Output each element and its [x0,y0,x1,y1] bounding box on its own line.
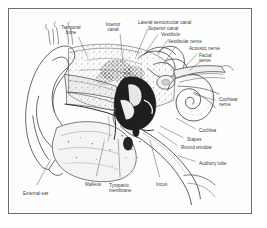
label-temporal-bone: Temporal bone [61,25,80,36]
vestibule-chamber [157,75,175,89]
label-vestibular-nerve: Vestibular nerve [168,39,202,44]
leader-cochlea [176,118,196,129]
label-malleus: Malleus [85,182,101,187]
figure-frame: Temporal boneInterior canalLateral semic… [8,8,252,214]
label-tympanic-membrane: Tympanic membrane [109,183,131,194]
auditory-tube-duct [136,130,215,205]
leader-acoustic-nerve [186,54,198,67]
leader-cochlear-nerve [193,94,215,100]
leader-incus [150,140,160,178]
label-vestibule: Vestibule [161,32,180,37]
label-auditory-tube: Auditory tube [199,161,227,166]
label-superior-canal: Superior canal [148,26,178,31]
label-external-ear: External ear [23,191,48,196]
label-cochlear-nerve: Cochlear nerve [219,97,238,108]
label-lateral-semicircular-canal: Lateral semicircular canal [138,20,191,25]
label-stapes: Stapes [187,137,202,142]
label-acoustic-nerve: Acoustic nerve [189,46,220,51]
label-round-window: Round window [181,145,212,150]
label-inferior-canal: Interior canal [106,22,121,33]
leader-round-window [158,132,178,146]
label-incus: Incus [156,182,167,187]
label-facial-nerve: Facial nerve [199,53,212,64]
label-cochlea: Cochlea [199,128,216,133]
mandible-condyle [52,122,136,182]
